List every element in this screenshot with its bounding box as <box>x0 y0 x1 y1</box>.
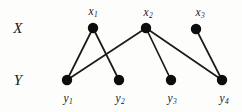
set-label-y: Y <box>14 72 23 89</box>
node-label-y2: y2 <box>116 92 125 104</box>
graph-node-y3 <box>166 75 176 85</box>
edge-layer <box>67 28 222 80</box>
graph-node-y1 <box>62 75 72 85</box>
graph-edge-x2-y1 <box>67 28 146 80</box>
graph-node-x2 <box>141 23 151 33</box>
set-label-x: X <box>13 20 22 37</box>
node-label-x2: x2 <box>144 6 153 18</box>
bipartite-graph-figure: XY x1x2x3y1y2y3y4 <box>0 0 242 112</box>
node-label-x1: x1 <box>89 5 98 17</box>
graph-edge-x2-y4 <box>146 28 222 80</box>
graph-node-y4 <box>217 75 227 85</box>
graph-edge-x3-y4 <box>196 29 222 80</box>
node-layer <box>62 23 227 85</box>
node-label-x3: x3 <box>196 6 205 18</box>
node-label-y1: y1 <box>64 92 73 104</box>
graph-node-y2 <box>114 75 124 85</box>
graph-node-x1 <box>88 23 98 33</box>
node-label-y3: y3 <box>168 92 177 104</box>
node-label-y4: y4 <box>220 92 229 104</box>
graph-node-x3 <box>191 24 201 34</box>
